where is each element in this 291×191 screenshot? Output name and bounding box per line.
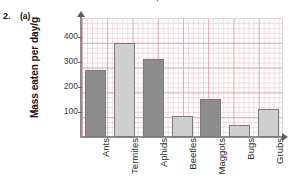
y-axis-arrow-icon: [77, 11, 85, 17]
y-tick-mark: [78, 62, 82, 63]
x-axis-label: Bugs: [245, 138, 256, 160]
header-strip: of 3 words correct = 1 mark, 1 or 0 word…: [0, 0, 291, 4]
x-axis-label: Aphids: [158, 138, 169, 167]
y-tick-label: 300: [52, 56, 78, 66]
bar-series: [81, 18, 283, 137]
x-axis-label: Grubs: [274, 138, 285, 164]
y-tick-mark: [78, 37, 82, 38]
y-tick-label: 200: [52, 81, 78, 91]
x-axis-label: Termites: [129, 138, 140, 174]
question-number: 2.: [3, 11, 11, 21]
bar: [229, 125, 250, 137]
y-axis-ticks: 100200300400: [50, 0, 78, 191]
x-axis-label: Ants: [100, 138, 111, 157]
y-axis-title: Mass eaten per day/g: [29, 8, 40, 128]
y-tick-mark: [78, 112, 82, 113]
bar: [200, 99, 221, 137]
x-axis-label: Beetles: [187, 138, 198, 170]
bar: [143, 59, 164, 137]
y-tick-label: 400: [52, 31, 78, 41]
bar: [172, 116, 193, 137]
bar: [258, 109, 279, 137]
mark-scheme-text: of 3 words correct = 1 mark, 1 or 0 word…: [48, 0, 268, 2]
x-axis-label: Maggots: [216, 138, 227, 174]
bar: [85, 70, 106, 137]
x-axis-labels: AntsTermitesAphidsBeetlesMaggotsBugsGrub…: [81, 138, 283, 191]
y-tick-mark: [78, 87, 82, 88]
bar: [114, 43, 135, 137]
y-tick-label: 100: [52, 106, 78, 116]
